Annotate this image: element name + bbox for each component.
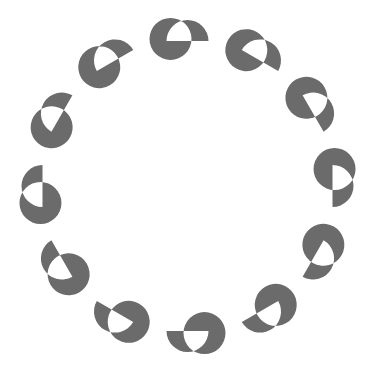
background-rect [0,0,375,372]
spinner-canvas: Loading spinner [0,0,375,372]
loading-spinner-icon: Loading spinner [0,0,375,372]
